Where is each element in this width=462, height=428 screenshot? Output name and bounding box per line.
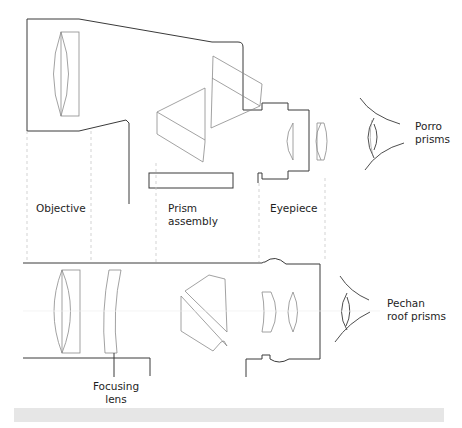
pechan-caption: Pechan roof prisms bbox=[387, 297, 446, 323]
porro-objective-lens bbox=[54, 32, 80, 116]
focusing-lens-label: Focusing lens bbox=[92, 380, 140, 406]
focusing-lens bbox=[104, 270, 121, 353]
porro-eyepiece-lenses bbox=[287, 123, 327, 160]
eyepiece-label: Eyepiece bbox=[270, 202, 318, 215]
prism-assembly-label-line1: Prism bbox=[168, 202, 218, 215]
focusing-lens-label-line2: lens bbox=[92, 393, 140, 406]
porro-housing bbox=[27, 19, 309, 204]
porro-prisms bbox=[157, 56, 262, 162]
prism-assembly-bar bbox=[149, 173, 233, 188]
porro-caption: Porro prisms bbox=[415, 120, 450, 146]
prism-assembly-label: Prism assembly bbox=[168, 202, 218, 228]
pechan-eyepiece-lenses bbox=[262, 292, 298, 332]
focusing-lens-label-line1: Focusing bbox=[92, 380, 140, 393]
porro-eye-icon bbox=[360, 98, 404, 170]
guide-lines bbox=[27, 131, 325, 262]
pechan-eye-icon bbox=[335, 276, 370, 342]
pechan-objective-lens bbox=[54, 270, 80, 353]
porro-caption-line1: Porro bbox=[415, 120, 450, 133]
pechan-prism bbox=[181, 275, 227, 351]
footer-bar bbox=[14, 408, 444, 422]
porro-caption-line2: prisms bbox=[415, 133, 450, 146]
pechan-caption-line1: Pechan bbox=[387, 297, 446, 310]
prism-assembly-label-line2: assembly bbox=[168, 215, 218, 228]
objective-label: Objective bbox=[36, 202, 86, 215]
pechan-caption-line2: roof prisms bbox=[387, 310, 446, 323]
